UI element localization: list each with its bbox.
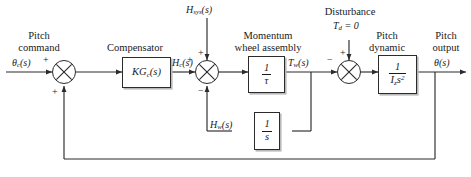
output-caption-line1: Pitch [424,30,468,41]
integrator-denominator: s [262,132,271,143]
summing-junction-2-cross [195,60,219,84]
momentum-wheel-block[interactable]: 1 τ [248,56,285,93]
signal-hsys-label: Hsys(s) [186,5,212,16]
momentum-wheel-title-line1: Momentum [222,30,314,41]
compensator-block-text: KGc(s) [132,66,161,79]
integrator-fraction: 1 s [262,119,271,142]
sum1-sign-left: + [43,55,49,65]
pitch-dynamic-title-line1: Pitch [355,30,419,41]
disturbance-title: Disturbance [305,6,395,17]
signal-hw-label: Hw(s) [210,120,232,131]
sum2-sign-bottom: − [198,86,204,96]
block-diagram-canvas: Pitch command θc(s) + + Compensator KGc(… [0,0,471,177]
pitch-dynamic-denominator: Izs2 [389,75,407,87]
output-caption-line2: output [424,42,468,53]
momentum-wheel-title-line2: wheel assembly [222,42,314,53]
momentum-wheel-numerator: 1 [262,63,271,74]
sum2-sign-top: + [198,48,204,58]
compensator-block[interactable]: KGc(s) [122,57,171,88]
integrator-numerator: 1 [262,119,271,130]
summing-junction-1-cross [52,60,76,84]
integrator-block[interactable]: 1 s [254,112,280,150]
sum3-sign-left: − [327,55,333,65]
sum1-sign-bottom: + [52,87,58,97]
summing-junction-3-cross [337,60,361,84]
pitch-dynamic-numerator: 1 [389,62,407,73]
input-caption-line2: command [4,42,74,53]
pitch-dynamic-fraction: 1 Izs2 [389,62,407,87]
sum3-sign-top: + [340,48,346,58]
pitch-dynamic-title-line2: dynamic [355,42,419,53]
pitch-dynamic-block[interactable]: 1 Izs2 [378,55,417,94]
signal-tw-label: Tw(s) [288,58,309,69]
output-signal-label: θ(s) [434,58,450,69]
momentum-wheel-denominator: τ [262,76,271,87]
input-caption-line1: Pitch [8,30,70,41]
input-signal-label: θc(s) [12,58,31,69]
momentum-wheel-fraction: 1 τ [262,63,271,86]
compensator-group-title: Compensator [94,42,176,53]
sum2-sign-left: + [187,55,193,65]
